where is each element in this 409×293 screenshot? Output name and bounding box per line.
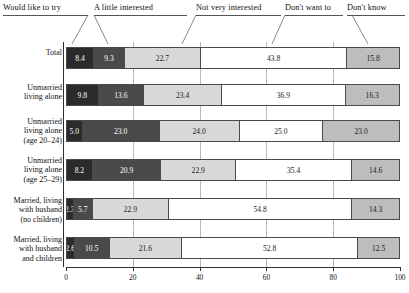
x-axis-tick bbox=[66, 267, 67, 271]
row-label-unmarried-20-24: Unmarriedliving alone(age 20–24) bbox=[0, 117, 62, 145]
bar-segment-value: 23.0 bbox=[354, 127, 367, 136]
bar-segment-don-t-know: 15.8 bbox=[347, 47, 400, 69]
bar-row: 5.023.024.025.023.0 bbox=[66, 120, 400, 142]
x-axis-tick-label: 20 bbox=[129, 273, 136, 282]
chart-legend: Would like to try A little interested No… bbox=[0, 0, 409, 46]
bar-segment-a-little-interested: 23.0 bbox=[83, 120, 160, 142]
row-label-line: (age 20–24) bbox=[0, 136, 62, 145]
bar-segment-don-t-want-to: 36.9 bbox=[222, 84, 345, 106]
bar-segment-value: 5.0 bbox=[70, 127, 80, 136]
bar-row: 2.610.521.652.812.5 bbox=[66, 237, 400, 259]
row-label-total: Total bbox=[0, 48, 62, 57]
bar-row: 8.220.922.935.414.6 bbox=[66, 159, 400, 181]
bar-segment-value: 24.0 bbox=[192, 127, 205, 136]
row-label-line: Unmarried bbox=[0, 156, 62, 165]
gridline-20 bbox=[133, 42, 134, 267]
bar-segment-value: 35.4 bbox=[287, 166, 300, 175]
bar-row: 9.813.623.436.916.3 bbox=[66, 84, 400, 106]
row-label-line: (age 25–29) bbox=[0, 175, 62, 184]
bar-segment-value: 22.9 bbox=[192, 166, 205, 175]
bar-segment-don-t-know: 14.3 bbox=[352, 198, 400, 220]
row-label-line: (no children) bbox=[0, 215, 62, 224]
bar-segment-don-t-want-to: 25.0 bbox=[240, 120, 324, 142]
bar-segment-value: 52.8 bbox=[263, 244, 276, 253]
bar-segment-a-little-interested: 13.6 bbox=[99, 84, 144, 106]
row-label-line: Unmarried bbox=[0, 117, 62, 126]
bar-segment-value: 12.5 bbox=[372, 244, 385, 253]
row-label-line: Unmarried bbox=[0, 83, 62, 92]
bar-row: 8.49.322.743.815.8 bbox=[66, 47, 400, 69]
row-label-line: living alone bbox=[0, 165, 62, 174]
bar-segment-don-t-want-to: 43.8 bbox=[201, 47, 347, 69]
x-axis-tick bbox=[333, 267, 334, 271]
bar-segment-a-little-interested: 20.9 bbox=[93, 159, 161, 181]
bar-segment-value: 15.8 bbox=[366, 54, 379, 63]
row-label-line: with husband bbox=[0, 205, 62, 214]
bar-segment-value: 2.3 bbox=[66, 205, 74, 214]
bar-segment-value: 36.9 bbox=[277, 91, 290, 100]
row-label-line: Total bbox=[0, 48, 62, 57]
row-label-line: with husband bbox=[0, 244, 62, 253]
x-axis-tick bbox=[266, 267, 267, 271]
bar-segment-value: 23.0 bbox=[114, 127, 127, 136]
legend-leader-lines bbox=[0, 0, 409, 46]
bar-segment-don-t-want-to: 52.8 bbox=[182, 237, 358, 259]
bar-segment-value: 14.3 bbox=[369, 205, 382, 214]
bar-segment-don-t-want-to: 54.8 bbox=[169, 198, 352, 220]
gridline-60 bbox=[266, 42, 267, 267]
x-axis-line bbox=[66, 267, 400, 268]
bar-segment-value: 25.0 bbox=[274, 127, 287, 136]
bar-segment-would-like-to-try: 2.3 bbox=[66, 198, 74, 220]
x-axis-tick-label: 0 bbox=[64, 273, 68, 282]
bar-segment-value: 22.7 bbox=[156, 54, 169, 63]
gridline-80 bbox=[333, 42, 334, 267]
bar-segment-would-like-to-try: 8.2 bbox=[66, 159, 93, 181]
bar-segment-don-t-know: 23.0 bbox=[323, 120, 400, 142]
bar-segment-value: 2.6 bbox=[66, 244, 75, 253]
bar-row: 2.35.722.954.814.3 bbox=[66, 198, 400, 220]
bar-segment-value: 8.4 bbox=[75, 54, 85, 63]
x-axis-tick-label: 60 bbox=[263, 273, 270, 282]
bar-segment-a-little-interested: 10.5 bbox=[75, 237, 110, 259]
bar-segment-not-very-interested: 22.9 bbox=[93, 198, 169, 220]
x-axis-tick-label: 100 bbox=[394, 273, 405, 282]
stacked-bar-chart: Would like to try A little interested No… bbox=[0, 0, 409, 293]
row-label-unmarried-25-29: Unmarriedliving alone(age 25–29) bbox=[0, 156, 62, 184]
x-axis-tick bbox=[200, 267, 201, 271]
bar-segment-a-little-interested: 9.3 bbox=[94, 47, 125, 69]
bar-segment-value: 9.3 bbox=[104, 54, 114, 63]
bar-segment-not-very-interested: 23.4 bbox=[144, 84, 222, 106]
plot-left-axis bbox=[63, 42, 64, 267]
x-axis-tick bbox=[133, 267, 134, 271]
bar-segment-value: 23.4 bbox=[176, 91, 189, 100]
gridline-40 bbox=[200, 42, 201, 267]
bar-segment-don-t-want-to: 35.4 bbox=[236, 159, 352, 181]
row-label-married-children: Married, livingwith husbandand children bbox=[0, 235, 62, 263]
bar-segment-value: 5.7 bbox=[78, 205, 88, 214]
bar-segment-not-very-interested: 21.6 bbox=[110, 237, 182, 259]
bar-segment-don-t-know: 12.5 bbox=[358, 237, 400, 259]
plot-area: 8.49.322.743.815.8 9.813.623.436.916.3 5… bbox=[66, 42, 400, 267]
bar-segment-value: 16.3 bbox=[366, 91, 379, 100]
bar-segment-value: 10.5 bbox=[85, 244, 98, 253]
bar-segment-value: 54.8 bbox=[254, 205, 267, 214]
bar-segment-value: 8.2 bbox=[75, 166, 85, 175]
bar-segment-would-like-to-try: 9.8 bbox=[66, 84, 99, 106]
bar-segment-a-little-interested: 5.7 bbox=[74, 198, 93, 220]
bar-segment-value: 13.6 bbox=[114, 91, 127, 100]
row-label-unmarried: Unmarriedliving alone bbox=[0, 83, 62, 102]
bar-segment-don-t-know: 16.3 bbox=[346, 84, 400, 106]
x-axis-tick-label: 40 bbox=[196, 273, 203, 282]
x-axis: 020406080100 bbox=[66, 267, 400, 293]
row-label-line: Married, living bbox=[0, 196, 62, 205]
bar-segment-would-like-to-try: 5.0 bbox=[66, 120, 83, 142]
bar-segment-not-very-interested: 22.7 bbox=[125, 47, 201, 69]
bar-segment-value: 9.8 bbox=[78, 91, 88, 100]
row-label-line: living alone bbox=[0, 92, 62, 101]
row-label-line: and children bbox=[0, 254, 62, 263]
row-label-married-no-children: Married, livingwith husband(no children) bbox=[0, 196, 62, 224]
bar-segment-would-like-to-try: 8.4 bbox=[66, 47, 94, 69]
row-label-line: Married, living bbox=[0, 235, 62, 244]
bar-segment-value: 43.8 bbox=[267, 54, 280, 63]
row-label-column: Total Unmarriedliving alone Unmarriedliv… bbox=[0, 42, 66, 267]
